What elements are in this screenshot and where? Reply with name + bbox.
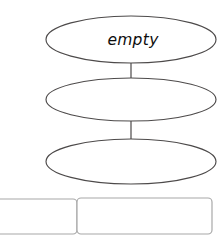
node-3-shape[interactable]	[46, 139, 216, 184]
node-1-label: empty	[107, 31, 159, 49]
node-ellipse-1[interactable]: empty	[46, 16, 216, 63]
panel-group	[0, 198, 212, 234]
panel-right[interactable]	[77, 198, 212, 234]
diagram-canvas: empty	[0, 0, 224, 242]
node-ellipse-3[interactable]	[46, 139, 216, 184]
node-2-shape[interactable]	[46, 78, 216, 121]
panel-left[interactable]	[0, 199, 77, 234]
node-ellipse-2[interactable]	[46, 78, 216, 121]
diagram-svg: empty	[0, 0, 224, 242]
